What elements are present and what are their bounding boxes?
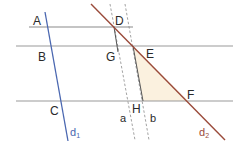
transversal-d2	[91, 4, 225, 140]
transversal-d1	[45, 12, 68, 141]
label-point-h: H	[132, 102, 141, 116]
label-line-b: b	[150, 112, 156, 124]
label-line-d1: d1	[70, 126, 80, 139]
label-line-d2: d2	[199, 126, 209, 139]
label-point-e: E	[146, 47, 154, 61]
geometry-diagram: A B C D G E H F a b d1 d2	[0, 0, 247, 151]
label-point-b: B	[38, 50, 46, 64]
label-point-a: A	[33, 14, 41, 28]
label-point-g: G	[106, 50, 115, 64]
label-point-f: F	[187, 88, 194, 102]
label-line-a: a	[120, 112, 127, 124]
label-point-d: D	[115, 14, 124, 28]
label-point-c: C	[50, 104, 59, 118]
